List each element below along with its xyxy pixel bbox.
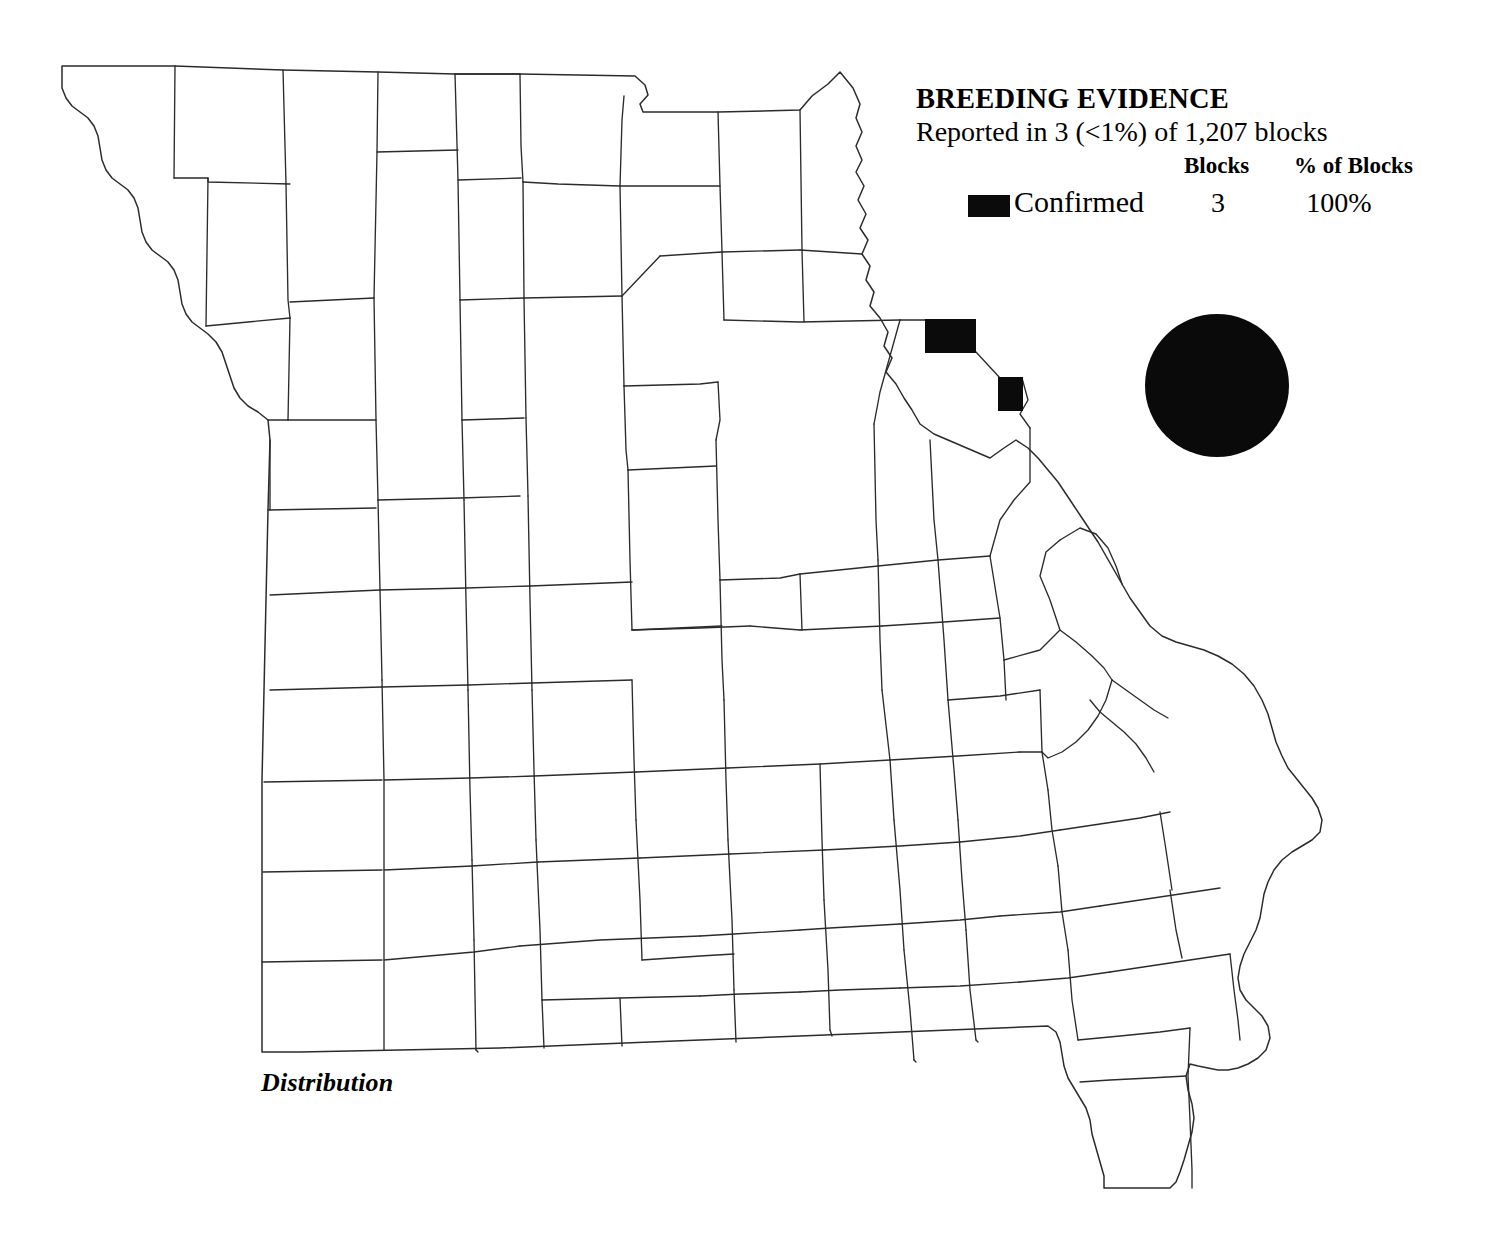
figure-caption: Distribution: [261, 1068, 393, 1098]
county-line: [914, 1060, 916, 1062]
filled-circle-symbol: [1145, 314, 1289, 457]
column-header-blocks: Blocks: [1184, 153, 1249, 179]
county-line: [976, 1040, 978, 1042]
confirmed-blocks: [925, 319, 1023, 411]
legend-subtitle: Reported in 3 (<1%) of 1,207 blocks: [916, 117, 1436, 147]
confirmed-block: [998, 377, 1023, 411]
confirmed-swatch-icon: [968, 195, 1010, 217]
legend-value-blocks: 3: [1184, 187, 1252, 219]
county-line: [476, 1050, 478, 1052]
legend-column-headers: Blocks % of Blocks: [916, 153, 1436, 187]
legend-value-percent: 100%: [1284, 187, 1394, 219]
legend-row-confirmed: Confirmed 3 100%: [916, 187, 1436, 225]
breeding-evidence-legend: BREEDING EVIDENCE Reported in 3 (<1%) of…: [916, 84, 1436, 225]
county-outlines: [62, 66, 1322, 1188]
distribution-map-page: BREEDING EVIDENCE Reported in 3 (<1%) of…: [0, 0, 1487, 1249]
column-header-percent-of-blocks: % of Blocks: [1294, 153, 1413, 179]
confirmed-block: [925, 319, 976, 353]
legend-label-confirmed: Confirmed: [1014, 185, 1144, 219]
county-line: [976, 352, 1000, 378]
legend-title: BREEDING EVIDENCE: [916, 84, 1436, 114]
